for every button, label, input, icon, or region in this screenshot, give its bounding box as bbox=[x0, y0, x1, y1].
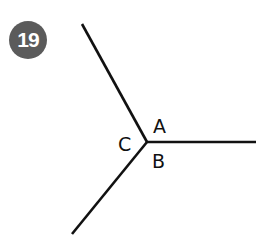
angle-label-b: B bbox=[152, 150, 165, 172]
angle-label-a: A bbox=[153, 115, 166, 137]
angles-diagram: A B C bbox=[0, 0, 264, 235]
angle-label-c: C bbox=[118, 133, 131, 155]
ray-lower-left bbox=[72, 142, 147, 234]
ray-upper bbox=[82, 24, 147, 142]
